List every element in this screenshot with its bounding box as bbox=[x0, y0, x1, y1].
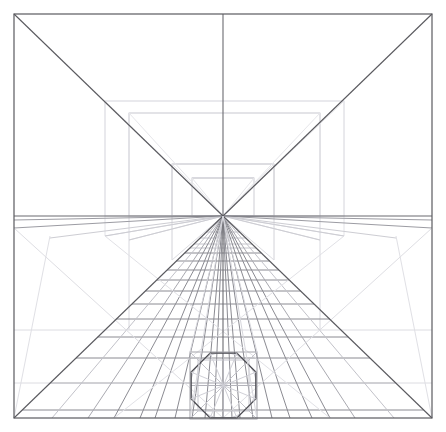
corner-sweep-1 bbox=[396, 236, 432, 418]
octagon-ortho-3 bbox=[223, 216, 257, 419]
radial-orthogonal-0 bbox=[52, 216, 223, 418]
perspective-construction-drawing bbox=[0, 0, 446, 432]
ceiling-rect-core-ortho-tr bbox=[223, 178, 254, 216]
radial-orthogonal-15 bbox=[223, 216, 330, 418]
radial-orthogonal-1 bbox=[88, 216, 223, 418]
corner-diagonal-bottom-right-to-vp bbox=[223, 216, 432, 418]
corner-sweep-0 bbox=[14, 236, 50, 418]
ceiling-rect-outer bbox=[105, 101, 344, 216]
corner-diagonal-top-left-to-vp bbox=[14, 14, 223, 216]
drawing-canvas bbox=[0, 0, 446, 432]
corner-diagonal-top-right-to-vp bbox=[223, 14, 432, 216]
ceiling-rect-core-ortho-tl bbox=[192, 178, 223, 216]
radial-orthogonal-14 bbox=[223, 216, 312, 418]
right-sweep-ray bbox=[223, 228, 432, 418]
left-wall-sweep bbox=[105, 236, 330, 418]
radial-orthogonal-16 bbox=[223, 216, 355, 418]
